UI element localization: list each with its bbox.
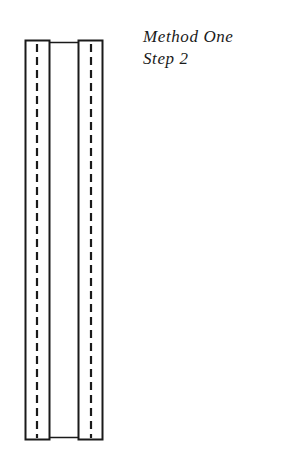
method-label: Method One bbox=[143, 26, 234, 48]
right-strip bbox=[79, 41, 103, 440]
folded-strips-diagram bbox=[0, 0, 288, 467]
step-label: Step 2 bbox=[143, 48, 234, 70]
step-caption: Method One Step 2 bbox=[143, 26, 234, 70]
center-panel bbox=[50, 43, 79, 438]
left-strip bbox=[26, 41, 50, 440]
